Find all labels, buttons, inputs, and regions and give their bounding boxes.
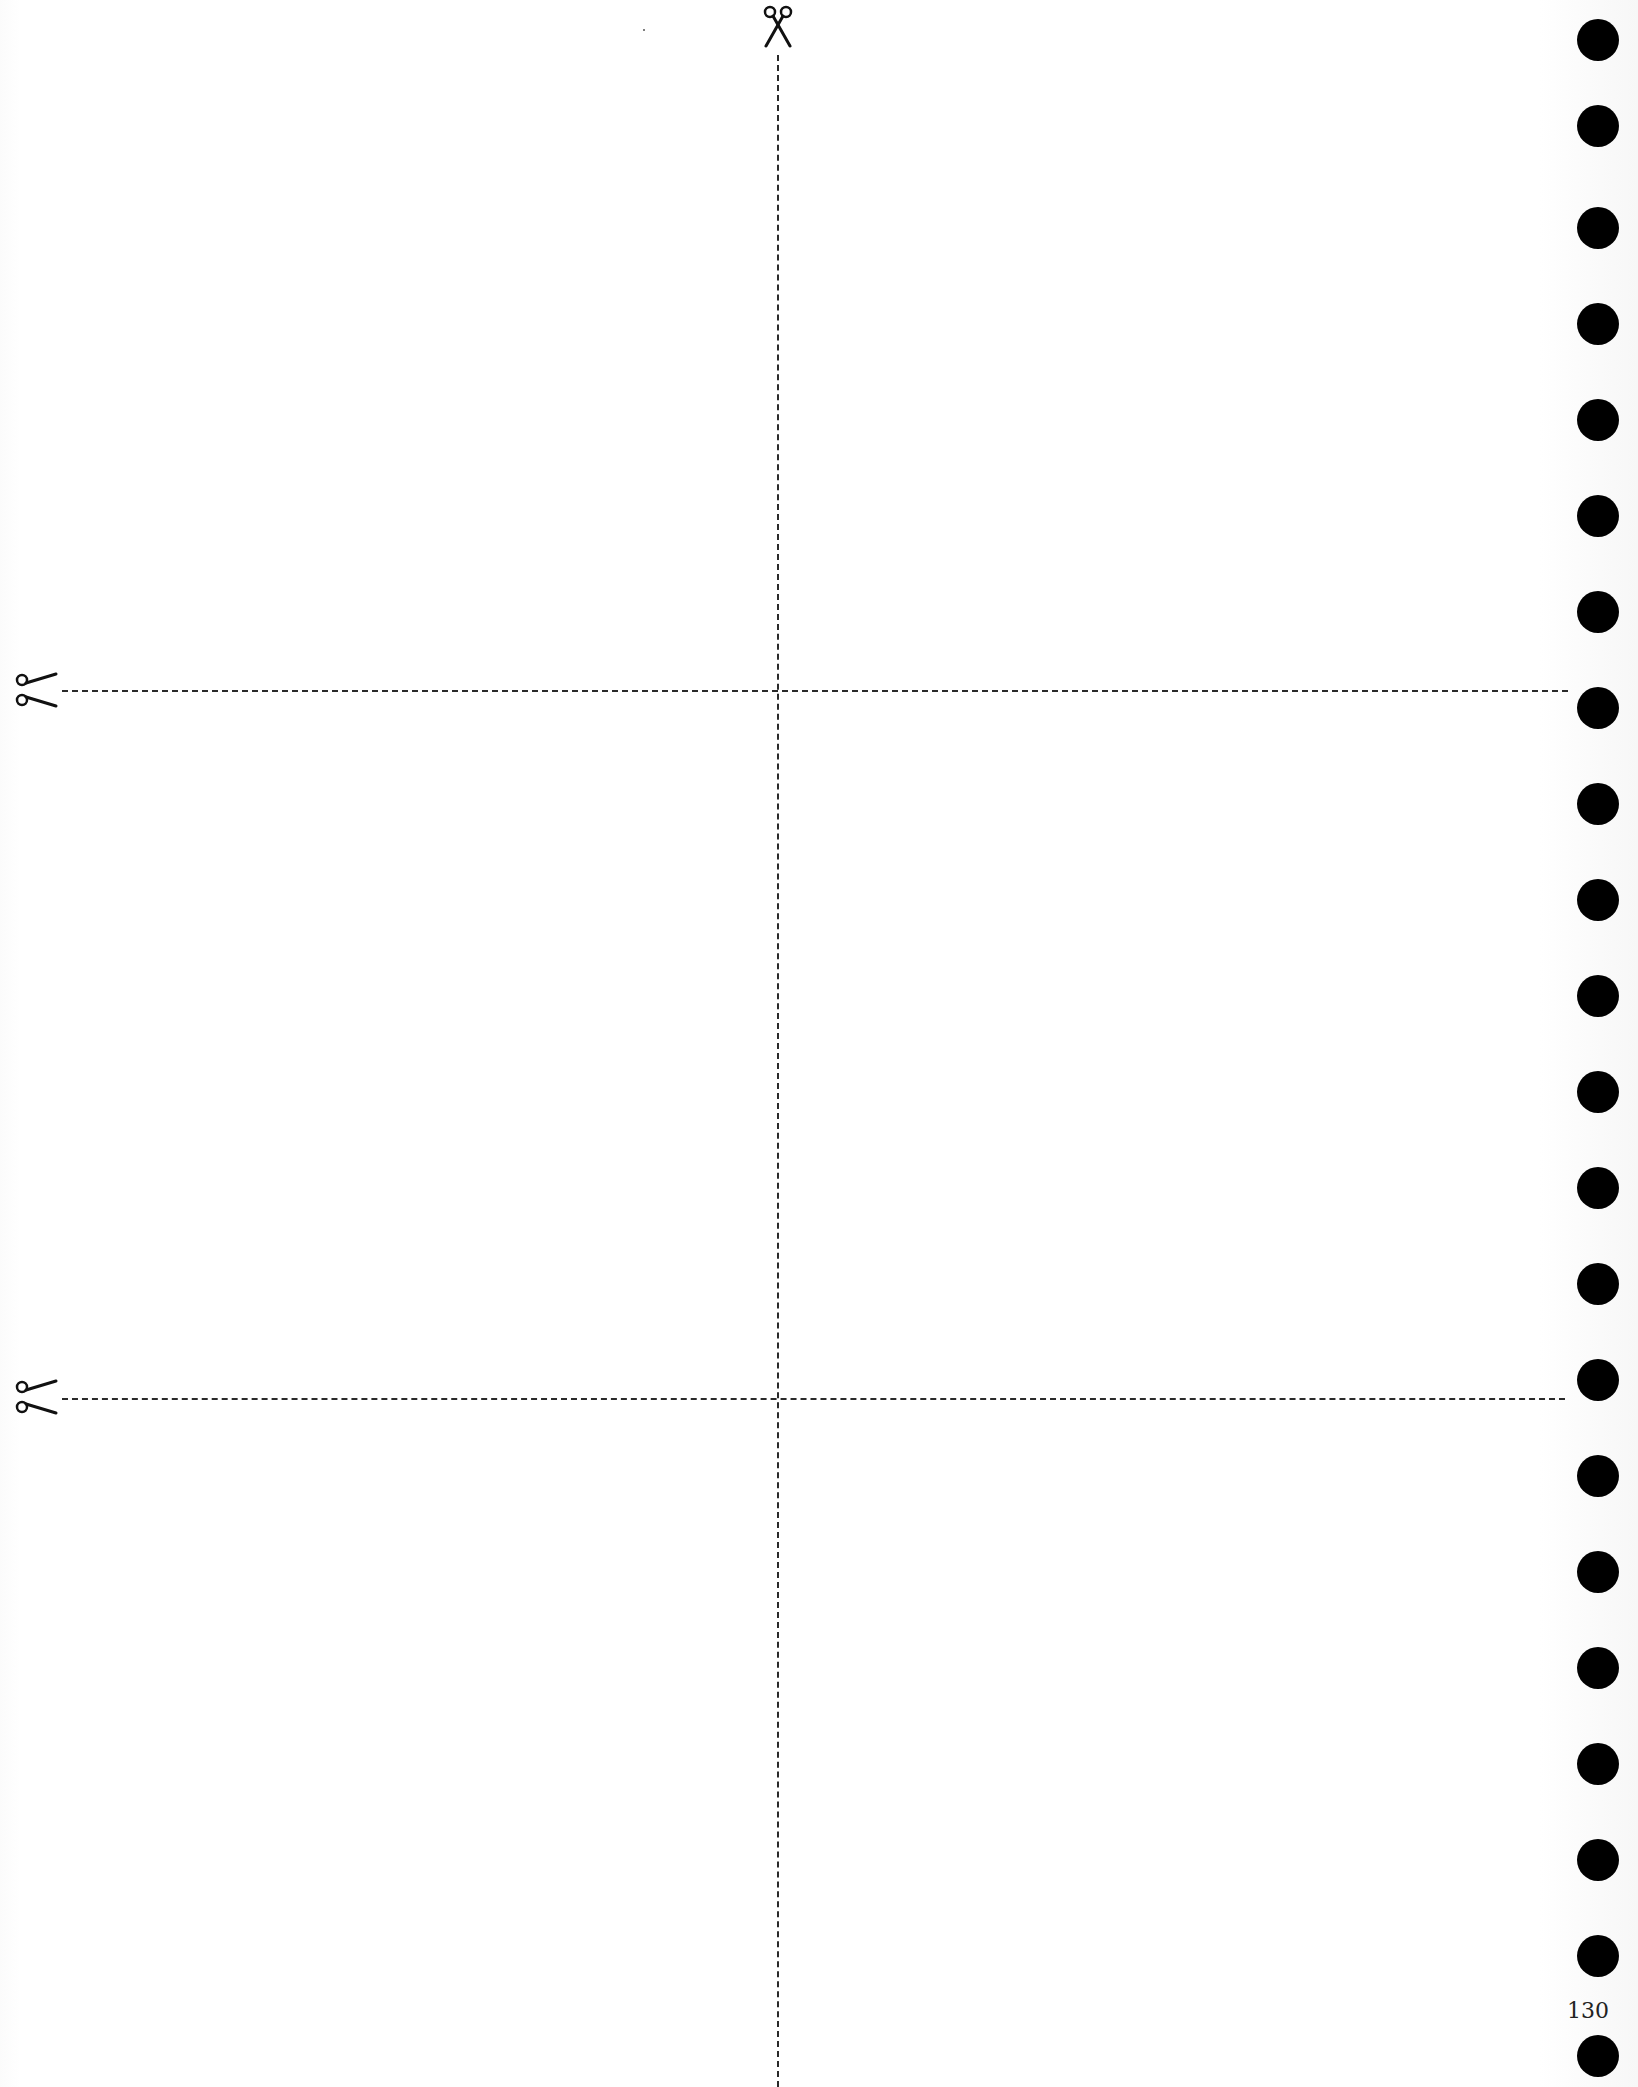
binder-hole [1577, 399, 1619, 441]
printable-page: 130 [0, 0, 1638, 2087]
binder-hole [1577, 879, 1619, 921]
scissors-icon [756, 4, 800, 48]
page-number: 130 [1567, 1998, 1609, 2023]
horizontal-cut-line-2 [62, 1398, 1565, 1400]
binder-hole [1577, 105, 1619, 147]
binder-hole [1577, 1743, 1619, 1785]
scissors-icon [14, 668, 58, 712]
binder-hole [1577, 1359, 1619, 1401]
vertical-cut-line [777, 55, 779, 2087]
horizontal-cut-line-1 [62, 690, 1568, 692]
binder-hole [1577, 2035, 1619, 2077]
speck [643, 29, 645, 31]
binder-hole [1577, 1455, 1619, 1497]
binder-hole [1577, 19, 1619, 61]
binder-hole [1577, 1839, 1619, 1881]
binder-hole [1577, 975, 1619, 1017]
binder-hole [1577, 1263, 1619, 1305]
binder-hole [1577, 591, 1619, 633]
scissors-icon [14, 1375, 58, 1419]
binder-hole [1577, 1167, 1619, 1209]
binder-hole [1577, 687, 1619, 729]
binder-hole [1577, 1935, 1619, 1977]
binder-hole [1577, 303, 1619, 345]
binder-hole [1577, 1551, 1619, 1593]
binder-hole [1577, 207, 1619, 249]
binder-hole [1577, 1071, 1619, 1113]
binder-hole [1577, 783, 1619, 825]
binder-hole [1577, 495, 1619, 537]
binder-hole [1577, 1647, 1619, 1689]
